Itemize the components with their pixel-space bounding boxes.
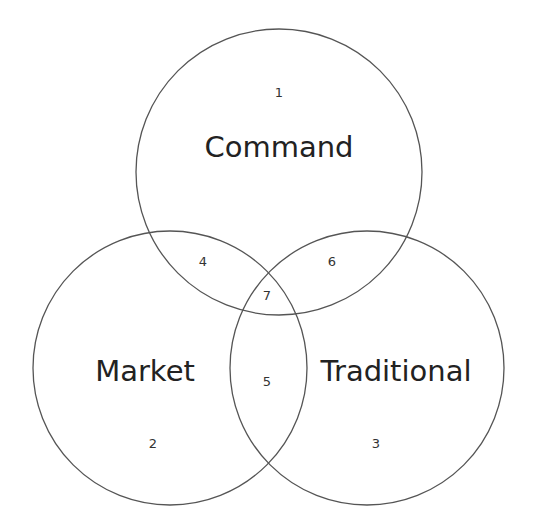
- region-7-label: 7: [263, 288, 271, 303]
- set-label-market: Market: [95, 354, 195, 388]
- region-4-label: 4: [199, 254, 207, 269]
- region-6-label: 6: [328, 254, 336, 269]
- region-1-label: 1: [275, 85, 283, 100]
- region-2-label: 2: [149, 436, 157, 451]
- circle-command: [136, 29, 422, 315]
- venn-diagram: 1 Command Market 2 Traditional 3 4 5 6 7: [0, 0, 544, 531]
- set-label-command: Command: [204, 130, 353, 164]
- region-3-label: 3: [372, 436, 380, 451]
- set-label-traditional: Traditional: [320, 354, 472, 388]
- region-5-label: 5: [263, 374, 271, 389]
